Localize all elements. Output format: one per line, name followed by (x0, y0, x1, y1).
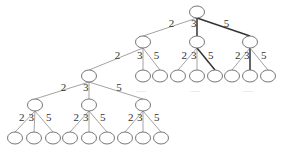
ellipsis-marker: ...... (190, 87, 200, 93)
ellipsis-marker: ...... (243, 87, 253, 93)
edge-label: 3 (244, 49, 250, 61)
tree-node-b2 (190, 70, 205, 82)
edge-label: 2 (19, 111, 25, 123)
edge-label: 3 (191, 17, 197, 29)
tree-node-a (136, 36, 151, 48)
tree-node-d2 (82, 99, 97, 111)
tree-node-r (190, 6, 205, 18)
edge-label: 5 (208, 49, 214, 61)
tree-node-e1 (8, 132, 23, 144)
edge-label: 5 (261, 49, 267, 61)
tree-node-b3 (208, 70, 223, 82)
edge-label: 5 (100, 111, 106, 123)
edge-label: 2 (181, 49, 187, 61)
edge-label: 3 (137, 111, 143, 123)
edge-label: 3 (83, 111, 89, 123)
tree-node-a3 (153, 70, 168, 82)
tree-node-d1 (28, 99, 43, 111)
tree-diagram: 235235235235235235235235................… (0, 0, 281, 154)
tree-node-c1 (225, 70, 240, 82)
tree-node-e2 (27, 132, 42, 144)
edge-d1-e2 (34, 111, 35, 132)
tree-node-e3 (46, 132, 61, 144)
edge-label: 3 (83, 81, 89, 93)
tree-node-b1 (171, 70, 186, 82)
edge-label: 3 (191, 49, 197, 61)
tree-node-a2 (136, 70, 151, 82)
tree-node-c (243, 36, 258, 48)
tree-node-e6 (100, 132, 115, 144)
edge-label: 3 (137, 49, 143, 61)
edge-label: 2 (61, 81, 66, 93)
edge-label: 3 (29, 111, 35, 123)
edge-label: 5 (154, 49, 160, 61)
edge-label: 2 (115, 49, 121, 61)
tree-node-e7 (118, 132, 133, 144)
edge-label: 2 (128, 111, 133, 123)
tree-node-b (190, 36, 205, 48)
tree-node-c3 (261, 70, 276, 82)
edge-label: 5 (46, 111, 52, 123)
edge-label: 5 (154, 111, 160, 123)
ellipsis-marker: ...... (136, 87, 146, 93)
tree-node-a1 (82, 70, 97, 82)
tree-node-d3 (136, 99, 151, 111)
edge-label: 2 (73, 111, 79, 123)
tree-node-e4 (63, 132, 78, 144)
edge-label: 2 (235, 49, 241, 61)
tree-node-e8 (136, 132, 151, 144)
tree-node-e9 (154, 132, 169, 144)
tree-node-e5 (82, 132, 97, 144)
edge-label: 5 (116, 81, 122, 93)
edge-label: 5 (224, 17, 230, 29)
edge-label: 2 (169, 17, 175, 29)
tree-node-c2 (243, 70, 258, 82)
